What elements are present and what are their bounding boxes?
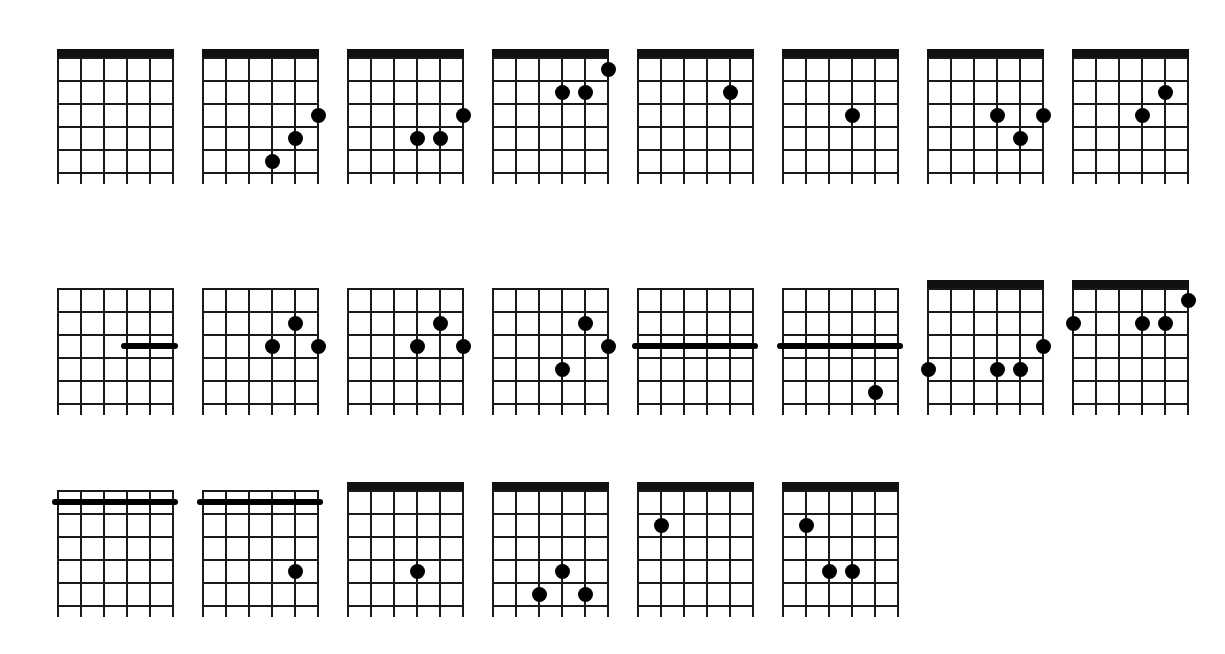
finger-dot — [1181, 293, 1196, 308]
string-line — [370, 57, 372, 184]
finger-dot — [555, 362, 570, 377]
chord-diagram — [57, 490, 172, 605]
nut-bar — [347, 49, 464, 57]
string-line — [561, 490, 563, 617]
fret-line — [347, 103, 464, 105]
fret-line — [347, 582, 464, 584]
fret-line — [202, 559, 319, 561]
fret-line — [927, 380, 1044, 382]
fret-line — [927, 126, 1044, 128]
finger-dot — [555, 564, 570, 579]
fret-line — [202, 403, 319, 405]
fret-line — [782, 380, 899, 382]
fret-line — [1072, 357, 1189, 359]
chord-diagram — [347, 57, 462, 172]
fret-line — [347, 380, 464, 382]
fretboard-grid — [782, 490, 897, 605]
string-line — [897, 490, 899, 617]
string-line — [347, 57, 349, 184]
fret-line — [347, 80, 464, 82]
fret-line — [347, 126, 464, 128]
string-line — [927, 57, 929, 184]
finger-dot — [1135, 108, 1150, 123]
string-line — [782, 490, 784, 617]
string-line — [149, 490, 151, 617]
string-line — [752, 288, 754, 415]
string-line — [637, 490, 639, 617]
string-line — [584, 288, 586, 415]
finger-dot — [265, 154, 280, 169]
fret-line — [927, 172, 1044, 174]
fret-line — [782, 288, 899, 290]
string-line — [57, 490, 59, 617]
fret-line — [492, 380, 609, 382]
finger-dot — [456, 339, 471, 354]
fretboard-grid — [202, 57, 317, 172]
fret-line — [637, 288, 754, 290]
fret-line — [1072, 288, 1189, 290]
finger-dot — [288, 131, 303, 146]
string-line — [874, 490, 876, 617]
fretboard-grid — [1072, 57, 1187, 172]
fret-line — [492, 311, 609, 313]
string-line — [805, 57, 807, 184]
chord-diagram — [637, 288, 752, 403]
string-line — [584, 57, 586, 184]
finger-dot — [1036, 108, 1051, 123]
finger-dot — [1036, 339, 1051, 354]
fret-line — [927, 80, 1044, 82]
finger-dot — [1158, 85, 1173, 100]
fret-line — [1072, 149, 1189, 151]
finger-dot — [1066, 316, 1081, 331]
string-line — [538, 288, 540, 415]
fret-line — [57, 605, 174, 607]
fret-line — [347, 357, 464, 359]
fret-line — [57, 559, 174, 561]
finger-dot — [456, 108, 471, 123]
fret-line — [782, 334, 899, 336]
fretboard-grid — [202, 288, 317, 403]
fret-line — [782, 403, 899, 405]
string-line — [202, 57, 204, 184]
finger-dot — [921, 362, 936, 377]
fret-line — [57, 288, 174, 290]
string-line — [126, 57, 128, 184]
chord-diagram — [492, 490, 607, 605]
string-line — [683, 288, 685, 415]
chord-diagram — [1072, 57, 1187, 172]
fret-line — [637, 80, 754, 82]
string-line — [927, 288, 929, 415]
finger-dot — [410, 131, 425, 146]
finger-dot — [845, 108, 860, 123]
string-line — [225, 490, 227, 617]
nut-bar — [637, 482, 754, 490]
string-line — [462, 490, 464, 617]
fret-line — [57, 380, 174, 382]
fret-line — [927, 103, 1044, 105]
fret-line — [57, 57, 174, 59]
nut-bar — [637, 49, 754, 57]
string-line — [492, 57, 494, 184]
barre-bar — [121, 343, 178, 349]
string-line — [1072, 57, 1074, 184]
string-line — [294, 57, 296, 184]
string-line — [1095, 288, 1097, 415]
fret-line — [347, 288, 464, 290]
nut-bar — [927, 49, 1044, 57]
fret-line — [927, 334, 1044, 336]
fretboard-grid — [57, 490, 172, 605]
fret-line — [492, 582, 609, 584]
chord-diagram — [347, 288, 462, 403]
fret-line — [637, 605, 754, 607]
string-line — [729, 288, 731, 415]
fretboard-grid — [492, 288, 607, 403]
fret-line — [202, 288, 319, 290]
string-line — [683, 490, 685, 617]
fret-line — [57, 490, 174, 492]
string-line — [851, 288, 853, 415]
string-line — [347, 288, 349, 415]
fret-line — [1072, 311, 1189, 313]
finger-dot — [265, 339, 280, 354]
fret-line — [1072, 126, 1189, 128]
fret-line — [637, 513, 754, 515]
